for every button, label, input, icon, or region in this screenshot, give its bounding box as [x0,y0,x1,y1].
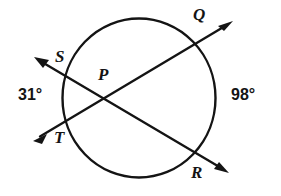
point-label-t: T [54,129,64,146]
arc-measure-label-left: 31° [18,87,42,103]
secant-line-s-p-r [41,62,222,169]
arrowhead-r-icon [214,162,229,173]
geometry-figure: S T P Q R 31° 98° [0,0,281,196]
arrowhead-s-icon [34,57,49,68]
circle [63,19,216,178]
point-label-r: R [191,164,202,181]
secant-line-t-p-q [40,26,226,137]
arc-measure-label-right: 98° [231,87,255,103]
point-label-s: S [55,48,64,65]
point-label-q: Q [193,6,205,23]
point-label-p: P [98,66,108,83]
